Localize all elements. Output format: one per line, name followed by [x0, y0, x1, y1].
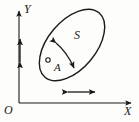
rigid-body-outline: [27, 0, 118, 93]
origin-label: O: [4, 104, 13, 116]
point-a-label: A: [54, 62, 61, 73]
x-axis-label: X: [124, 105, 131, 117]
y-axis-label: Y: [24, 3, 31, 15]
rigid-body-label: S: [74, 29, 80, 41]
point-a-marker: [46, 58, 50, 62]
figure-container: Y X O S A: [0, 0, 139, 122]
diagram-canvas: [0, 0, 139, 122]
